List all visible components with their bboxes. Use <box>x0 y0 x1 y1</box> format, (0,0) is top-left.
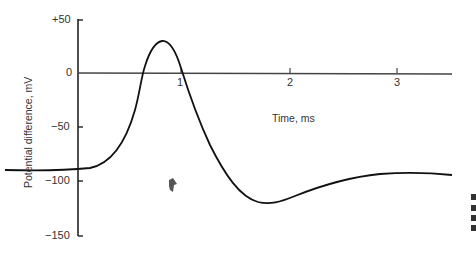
caption-fragment <box>471 215 476 221</box>
y-tick-label: −100 <box>45 174 70 186</box>
y-tick-label: 0 <box>66 66 72 78</box>
x-tick-label: 2 <box>287 76 293 88</box>
x-tick-label: 3 <box>394 76 400 88</box>
y-axis-label: Potential difference, mV <box>22 77 34 188</box>
chart-canvas <box>0 0 476 256</box>
smudge-mark <box>169 178 177 192</box>
caption-fragment <box>471 225 476 231</box>
y-tick-label: −50 <box>51 120 70 132</box>
y-tick-label: +50 <box>52 13 71 25</box>
x-axis <box>78 73 452 74</box>
caption-fragment <box>471 205 476 211</box>
caption-fragment <box>471 194 476 200</box>
x-tick-label: 1 <box>177 76 183 88</box>
y-tick-label: −150 <box>45 229 70 241</box>
x-axis-label: Time, ms <box>272 112 315 124</box>
